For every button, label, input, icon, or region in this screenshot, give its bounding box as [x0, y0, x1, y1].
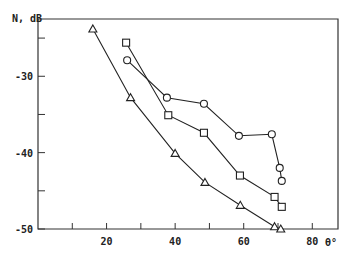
y-tick-label: -50 [15, 224, 33, 235]
square-marker [123, 39, 130, 46]
chart: 20406080-50-40-30 N, dB θ° [0, 0, 353, 261]
series [89, 25, 285, 232]
x-tick-label: 60 [238, 236, 250, 247]
triangle-marker [127, 94, 135, 101]
plot-frame [38, 19, 338, 229]
circle-marker [235, 132, 242, 139]
circle-marker [276, 164, 283, 171]
triangle-marker [271, 223, 279, 230]
x-tick-label: 40 [169, 236, 181, 247]
square-marker [271, 193, 278, 200]
axes [38, 19, 338, 229]
series-circles [124, 57, 286, 185]
square-marker [236, 172, 243, 179]
circle-marker [200, 100, 207, 107]
square-marker [200, 129, 207, 136]
x-axis-label: θ° [325, 237, 337, 248]
y-axis-label: N, dB [12, 13, 42, 24]
x-tick-label: 20 [101, 236, 113, 247]
circle-marker [268, 131, 275, 138]
series-line-triangles [93, 29, 281, 229]
y-tick-label: -40 [15, 148, 33, 159]
x-tick-label: 80 [306, 236, 318, 247]
circle-marker [163, 94, 170, 101]
circle-marker [278, 177, 285, 184]
series-triangles [89, 25, 285, 232]
y-tick-label: -30 [15, 71, 33, 82]
series-line-circles [127, 60, 282, 181]
square-marker [165, 112, 172, 119]
triangle-marker [89, 25, 97, 32]
square-marker [278, 203, 285, 210]
circle-marker [124, 57, 131, 64]
triangle-marker [236, 201, 244, 208]
